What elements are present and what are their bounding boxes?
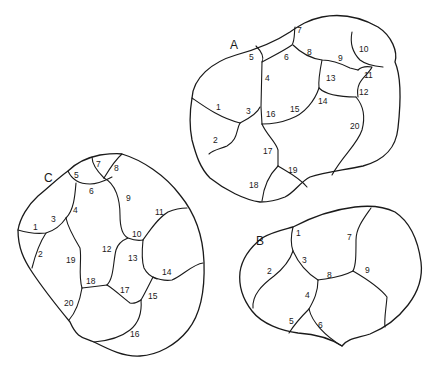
shape-c-divider: [143, 208, 187, 240]
shape-c-label: C: [44, 171, 53, 185]
shape-b-divider: [353, 271, 387, 327]
region-label: 9: [365, 265, 370, 275]
region-label: 19: [66, 255, 76, 265]
region-label: 6: [284, 52, 289, 62]
region-label: 9: [338, 53, 343, 63]
shape-c-divider: [104, 154, 122, 178]
region-label: 4: [265, 73, 270, 83]
region-label: 5: [74, 170, 79, 180]
region-label: 2: [38, 249, 43, 259]
region-label: 4: [305, 290, 310, 300]
region-label: 14: [318, 96, 328, 106]
shape-a-label: A: [230, 38, 238, 52]
shape-a-divider: [262, 124, 278, 166]
region-label: 4: [73, 205, 78, 215]
shape-b-divider: [253, 251, 293, 308]
region-label: 17: [263, 146, 273, 156]
region-label: 14: [162, 267, 172, 277]
shape-c-divider: [18, 218, 66, 233]
shape-a-divider: [332, 97, 364, 175]
shape-a-divider: [293, 45, 358, 70]
region-label: 18: [249, 180, 259, 190]
shape-b-label: B: [256, 234, 264, 248]
region-label: 2: [267, 266, 272, 276]
region-label: 16: [266, 109, 276, 119]
shape-b-divider: [292, 227, 294, 251]
region-label: 3: [246, 106, 251, 116]
region-label: 8: [327, 270, 332, 280]
shape-b: B 1 2 3 4 5 6 7 8 9: [240, 206, 422, 346]
region-label: 11: [364, 70, 373, 80]
region-label: 19: [288, 165, 298, 175]
shape-b-divider: [353, 208, 371, 271]
shape-b-divider: [318, 271, 353, 280]
region-label: 5: [249, 52, 254, 62]
region-label: 8: [114, 163, 119, 173]
shape-b-divider: [309, 309, 342, 346]
shape-c-divider: [153, 263, 203, 280]
shape-c-divider: [66, 218, 82, 288]
region-label: 12: [359, 87, 369, 97]
diagram-canvas: A 1 2 3 4 5 6 7 8 9 10 11 12 13 14 15 16…: [0, 0, 428, 371]
region-label: 1: [33, 222, 38, 232]
region-label: 2: [213, 135, 218, 145]
region-label: 20: [350, 121, 360, 131]
region-label: 7: [96, 159, 101, 169]
region-label: 3: [302, 255, 307, 265]
region-label: 11: [155, 207, 164, 217]
region-label: 6: [318, 320, 323, 330]
region-label: 7: [297, 25, 302, 35]
shape-a: A 1 2 3 4 5 6 7 8 9 10 11 12 13 14 15 16…: [190, 16, 400, 202]
region-label: 15: [290, 104, 300, 114]
shape-c-divider: [142, 240, 157, 279]
region-label: 16: [130, 329, 140, 339]
region-label: 12: [102, 244, 112, 254]
region-label: 1: [296, 228, 301, 238]
region-label: 7: [347, 232, 352, 242]
region-label: 13: [128, 253, 138, 263]
region-label: 15: [148, 291, 158, 301]
region-label: 5: [289, 316, 294, 326]
shape-b-divider: [309, 280, 318, 309]
region-label: 18: [86, 276, 96, 286]
shape-c: C 1 2 3 4 5 6 7 8 9 10 11 12 13 14 15 16…: [18, 154, 204, 357]
region-label: 6: [89, 186, 94, 196]
region-label: 10: [359, 44, 369, 54]
region-label: 17: [120, 285, 130, 295]
region-label: 3: [51, 214, 56, 224]
shape-a-divider: [319, 60, 322, 88]
region-label: 20: [64, 298, 74, 308]
region-label: 1: [216, 102, 221, 112]
region-label: 13: [326, 73, 336, 83]
region-label: 8: [307, 47, 312, 57]
shape-a-divider: [262, 166, 278, 201]
region-label: 10: [132, 229, 142, 239]
diagram-svg: A 1 2 3 4 5 6 7 8 9 10 11 12 13 14 15 16…: [0, 0, 428, 371]
region-label: 9: [126, 193, 131, 203]
